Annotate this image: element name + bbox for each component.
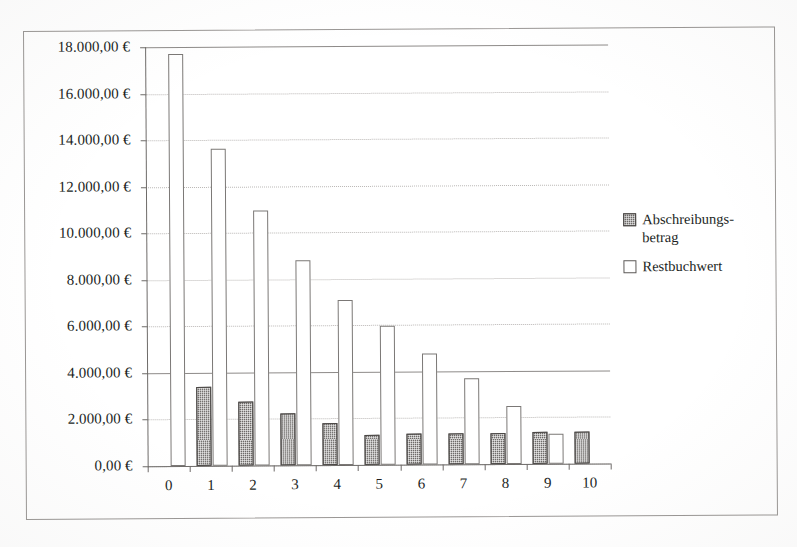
gridline <box>145 44 608 48</box>
x-axis-tick-mark <box>484 464 485 470</box>
x-axis-tick-mark <box>526 464 527 470</box>
x-axis-tick-label: 10 <box>570 474 610 491</box>
y-axis-tick-label: 16.000,00 € <box>10 86 130 102</box>
y-axis-tick-label: 8.000,00 € <box>11 272 131 288</box>
legend-swatch-dark-icon <box>623 213 636 226</box>
y-axis-tick-label: 10.000,00 € <box>11 226 131 242</box>
legend-item-label: Abschreibungs- betrag <box>642 210 734 247</box>
x-axis-tick-label: 0 <box>149 477 189 494</box>
chart-container: 0,00 €2.000,00 €4.000,00 €6.000,00 €8.00… <box>0 0 797 547</box>
y-axis-tick-label: 14.000,00 € <box>11 132 131 148</box>
bar-restbuchwert-9 <box>549 433 564 463</box>
bar-abschreibungsbetrag-5 <box>364 435 379 465</box>
x-axis-tick-mark <box>358 465 359 471</box>
y-axis-tick-label: 0,00 € <box>13 458 133 474</box>
y-axis-tick-label: 2.000,00 € <box>12 412 132 428</box>
bar-abschreibungsbetrag-2 <box>238 402 253 466</box>
x-axis-tick-label: 6 <box>401 475 441 492</box>
bar-abschreibungsbetrag-3 <box>280 413 295 465</box>
bar-restbuchwert-5 <box>380 326 396 465</box>
x-axis-tick-mark <box>190 466 191 472</box>
x-axis-tick-mark <box>569 464 570 470</box>
bar-restbuchwert-7 <box>464 379 480 465</box>
bar-abschreibungsbetrag-4 <box>322 423 337 465</box>
x-axis-tick-label: 5 <box>359 476 399 493</box>
x-axis-tick-mark <box>232 466 233 472</box>
legend-swatch-light-icon <box>623 260 636 273</box>
chart-legend: Abschreibungs- betragRestbuchwert <box>623 209 783 286</box>
x-axis-tick-mark <box>148 466 149 472</box>
legend-item[interactable]: Abschreibungs- betrag <box>623 209 783 246</box>
x-axis-tick-mark <box>316 465 317 471</box>
y-axis-tick-label: 4.000,00 € <box>12 365 132 381</box>
x-axis-tick-mark <box>274 465 275 471</box>
x-axis-tick-label: 3 <box>275 476 315 493</box>
bar-restbuchwert-6 <box>422 353 438 464</box>
plot-wrapper: 0,00 €2.000,00 €4.000,00 €6.000,00 €8.00… <box>0 0 797 547</box>
gridline <box>146 138 609 142</box>
y-axis-tick-label: 12.000,00 € <box>11 179 131 195</box>
y-axis-tick-label: 18.000,00 € <box>10 39 130 55</box>
plot-area <box>145 44 611 466</box>
x-axis-tick-label: 2 <box>233 476 273 493</box>
bar-restbuchwert-8 <box>507 406 522 464</box>
x-axis-tick-label: 8 <box>485 475 525 492</box>
x-axis-tick-mark <box>400 465 401 471</box>
bar-abschreibungsbetrag-7 <box>449 433 464 464</box>
gridline <box>145 91 608 95</box>
bar-abschreibungsbetrag-10 <box>575 431 590 463</box>
x-axis-tick-mark <box>611 463 612 469</box>
bar-restbuchwert-3 <box>295 260 311 465</box>
x-axis-tick-label: 9 <box>528 475 568 492</box>
bar-abschreibungsbetrag-9 <box>533 432 548 464</box>
x-axis-tick-mark <box>442 464 443 470</box>
x-axis-tick-label: 1 <box>191 477 231 494</box>
bar-abschreibungsbetrag-8 <box>491 433 506 464</box>
bar-restbuchwert-2 <box>253 211 270 466</box>
legend-item-label: Restbuchwert <box>642 257 722 275</box>
y-axis-tick-label: 6.000,00 € <box>12 319 132 335</box>
bar-restbuchwert-1 <box>210 149 227 466</box>
bar-abschreibungsbetrag-1 <box>196 387 211 466</box>
legend-item[interactable]: Restbuchwert <box>623 256 783 275</box>
bar-restbuchwert-4 <box>338 300 354 465</box>
bar-abschreibungsbetrag-6 <box>407 434 422 465</box>
bar-restbuchwert-0 <box>168 54 186 466</box>
x-axis-tick-label: 4 <box>317 476 357 493</box>
x-axis-tick-label: 7 <box>443 475 483 492</box>
